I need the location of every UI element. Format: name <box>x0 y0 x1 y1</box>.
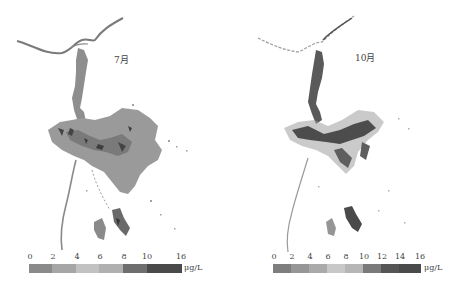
july-colorbar <box>29 264 182 273</box>
tick: 6 <box>325 252 330 261</box>
october-colorbar <box>273 264 421 273</box>
colorbar-bin <box>291 264 309 273</box>
tick: 16 <box>176 252 186 261</box>
october-panel: 10月 0 2 4 6 8 10 12 14 16 μg/L <box>228 0 456 285</box>
october-title: 10月 <box>355 51 375 64</box>
tick: 0 <box>271 252 276 261</box>
colorbar-bin <box>399 264 421 273</box>
colorbar-bin <box>147 264 182 273</box>
colorbar-bin <box>29 264 52 273</box>
tick: 8 <box>343 252 348 261</box>
july-colorbar-unit: μg/L <box>184 263 202 272</box>
july-title: 7月 <box>114 53 129 66</box>
colorbar-bin <box>327 264 345 273</box>
tick: 10 <box>359 252 369 261</box>
october-map <box>228 0 456 260</box>
colorbar-bin <box>52 264 76 273</box>
tick: 6 <box>97 252 102 261</box>
tick: 14 <box>395 252 405 261</box>
october-colorbar-unit: μg/L <box>424 263 442 272</box>
colorbar-bin <box>345 264 363 273</box>
tick: 16 <box>415 252 425 261</box>
tick: 4 <box>74 252 79 261</box>
tick: 10 <box>142 252 152 261</box>
july-panel: 7月 0 2 4 6 8 10 16 μg/L <box>0 0 228 285</box>
tick: 4 <box>307 252 312 261</box>
colorbar-bin <box>123 264 147 273</box>
tick: 8 <box>121 252 126 261</box>
october-colorbar-ticks: 0 2 4 6 8 10 12 14 16 <box>228 252 456 262</box>
colorbar-bin <box>99 264 123 273</box>
colorbar-bin <box>273 264 291 273</box>
july-colorbar-ticks: 0 2 4 6 8 10 16 <box>0 252 228 262</box>
july-map <box>0 0 228 260</box>
colorbar-bin <box>76 264 99 273</box>
colorbar-bin <box>381 264 399 273</box>
colorbar-bin <box>363 264 381 273</box>
tick: 0 <box>27 252 32 261</box>
tick: 2 <box>50 252 55 261</box>
colorbar-bin <box>309 264 327 273</box>
tick: 2 <box>289 252 294 261</box>
tick: 12 <box>377 252 387 261</box>
